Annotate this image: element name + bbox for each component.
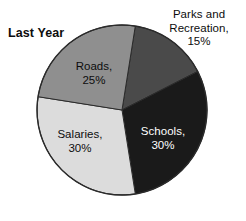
pie-label-parks-line-3: 15% <box>154 35 244 49</box>
pie-label-salaries-line-2: 30% <box>44 142 116 156</box>
pie-label-parks-and-recreation: Parks and Recreation, 15% <box>154 8 244 49</box>
pie-label-roads-line-2: 25% <box>63 74 125 88</box>
pie-label-salaries: Salaries, 30% <box>44 128 116 155</box>
pie-label-parks-line-2: Recreation, <box>154 22 244 36</box>
pie-label-roads-line-1: Roads, <box>63 60 125 74</box>
pie-chart-figure: Last Year Parks and Recreation, 15% Road… <box>0 0 246 221</box>
pie-label-salaries-line-1: Salaries, <box>44 128 116 142</box>
pie-label-schools-line-1: Schools, <box>129 125 197 139</box>
pie-label-roads: Roads, 25% <box>63 60 125 87</box>
pie-label-schools-line-2: 30% <box>129 139 197 153</box>
pie-label-schools: Schools, 30% <box>129 125 197 152</box>
pie-label-parks-line-1: Parks and <box>154 8 244 22</box>
